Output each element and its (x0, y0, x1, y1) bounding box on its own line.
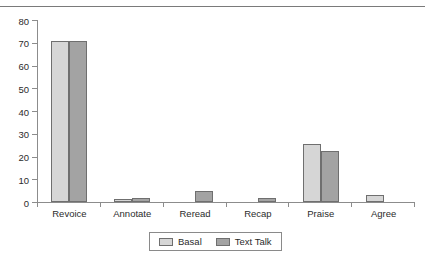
chart-legend: Basal Text Talk (149, 232, 282, 251)
bar-basal-annotate (114, 199, 132, 202)
chart-figure: 01020304050607080 RevoiceAnnotateRereadR… (0, 0, 425, 265)
bar-text-talk-revoice (69, 41, 87, 202)
bar-basal-praise (303, 144, 321, 202)
y-axis-tick: 80 (32, 20, 37, 21)
x-axis-category-label: Agree (371, 208, 396, 219)
y-axis-tick: 20 (32, 157, 37, 158)
bar-basal-agree (366, 195, 384, 202)
x-axis-category-label: Revoice (52, 208, 86, 219)
y-axis-tick: 10 (32, 179, 37, 180)
bar-text-talk-annotate (132, 198, 150, 202)
x-axis-category-label: Praise (307, 208, 334, 219)
y-axis-tick-label: 10 (18, 174, 29, 185)
y-axis-tick-label: 70 (18, 38, 29, 49)
x-axis-tick (37, 203, 38, 207)
legend-item-text-talk[interactable]: Text Talk (216, 236, 272, 247)
y-axis-tick-label: 30 (18, 129, 29, 140)
x-axis-tick (414, 203, 415, 207)
y-axis-tick: 40 (32, 111, 37, 112)
x-axis-tick (351, 203, 352, 207)
x-axis-category-label: Annotate (113, 208, 151, 219)
x-axis-tick (226, 203, 227, 207)
y-axis-tick-label: 60 (18, 61, 29, 72)
y-axis-tick-label: 20 (18, 152, 29, 163)
y-axis-tick: 70 (32, 43, 37, 44)
legend-label-basal: Basal (178, 236, 202, 247)
bar-text-talk-reread (195, 191, 213, 202)
y-axis-tick-label: 80 (18, 15, 29, 26)
x-axis-category-label: Reread (179, 208, 210, 219)
y-axis-tick-label: 50 (18, 83, 29, 94)
y-axis-tick: 30 (32, 134, 37, 135)
legend-label-text-talk: Text Talk (235, 236, 272, 247)
y-axis-tick-label: 0 (24, 197, 29, 208)
legend-swatch-icon-text-talk (216, 238, 230, 246)
y-axis-tick: 50 (32, 88, 37, 89)
bar-chart: 01020304050607080 RevoiceAnnotateRereadR… (0, 0, 425, 265)
x-axis-tick (288, 203, 289, 207)
legend-swatch-icon-basal (159, 238, 173, 246)
legend-item-basal[interactable]: Basal (159, 236, 202, 247)
bars-layer (38, 20, 415, 202)
bar-basal-revoice (51, 41, 69, 202)
y-axis-tick: 60 (32, 66, 37, 67)
x-axis-tick (100, 203, 101, 207)
bar-text-talk-recap (258, 198, 276, 202)
bar-text-talk-praise (321, 151, 339, 202)
x-axis-category-label: Recap (244, 208, 271, 219)
y-axis-tick-label: 40 (18, 106, 29, 117)
x-axis-tick (163, 203, 164, 207)
